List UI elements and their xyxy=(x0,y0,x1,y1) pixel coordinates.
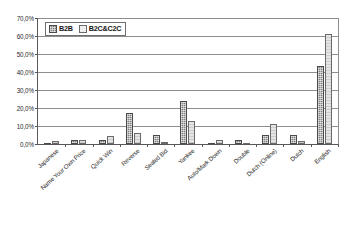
bar xyxy=(99,140,106,144)
y-tick-label: 30,0% xyxy=(17,87,34,94)
legend: B2B B2C&C2C xyxy=(45,22,126,36)
x-axis-label-text: Quick Win xyxy=(89,147,114,170)
x-axis-label-text: Yankee xyxy=(176,147,195,165)
bar-group xyxy=(202,18,229,144)
bar-group xyxy=(65,18,92,144)
legend-label: B2C&C2C xyxy=(89,24,122,33)
bar-group xyxy=(174,18,201,144)
y-tick-label: 50,0% xyxy=(17,51,34,58)
y-tick-mark xyxy=(35,144,38,145)
bar-group xyxy=(283,18,310,144)
legend-entry-b2c-c2c: B2C&C2C xyxy=(79,24,122,33)
bar xyxy=(235,140,242,144)
x-axis-label: Yankee xyxy=(176,147,195,165)
bar xyxy=(290,135,297,144)
bar xyxy=(216,140,223,144)
x-axis-label-text: Reverse xyxy=(120,147,141,167)
y-tick-label: 0,0% xyxy=(20,141,34,148)
bar xyxy=(180,101,187,144)
bar-group xyxy=(38,18,65,144)
x-axis-label-text: Japanese xyxy=(36,147,60,169)
bar xyxy=(262,135,269,144)
bar-group xyxy=(120,18,147,144)
y-tick-label: 40,0% xyxy=(17,69,34,76)
plot-area xyxy=(37,18,338,145)
x-axis-label: Dutch xyxy=(289,147,305,163)
plot-right-border xyxy=(338,18,339,145)
legend-swatch-icon xyxy=(49,25,57,33)
x-axis-labels: JapaneseName Your Own PriceQuick WinReve… xyxy=(37,147,347,232)
x-axis-label: English xyxy=(313,147,332,165)
legend-swatch-icon xyxy=(79,25,87,33)
y-tick-label: 20,0% xyxy=(17,105,34,112)
bar xyxy=(79,140,86,145)
bar-chart: 70,0% 60,0% 50,0% 40,0% 30,0% 20,0% 10,0… xyxy=(0,0,348,232)
bar xyxy=(161,142,168,144)
bar xyxy=(52,141,59,144)
y-axis: 70,0% 60,0% 50,0% 40,0% 30,0% 20,0% 10,0… xyxy=(0,0,34,232)
bar-groups xyxy=(38,18,338,144)
x-axis-label: Sealed Bid xyxy=(143,147,169,171)
bar xyxy=(208,143,215,144)
x-axis-label: Double xyxy=(232,147,251,165)
bar xyxy=(325,34,332,144)
bar xyxy=(44,143,51,144)
bar xyxy=(71,140,78,144)
bar-group xyxy=(147,18,174,144)
bar-group xyxy=(93,18,120,144)
x-axis-label: Japanese xyxy=(36,147,60,169)
bar xyxy=(134,133,141,144)
bar-group xyxy=(256,18,283,144)
x-axis-label-text: Sealed Bid xyxy=(143,147,169,171)
y-tick-label: 70,0% xyxy=(17,15,34,22)
bar xyxy=(243,143,250,144)
bar xyxy=(107,136,114,144)
bar xyxy=(188,121,195,144)
bar xyxy=(270,124,277,144)
x-axis-label-text: Double xyxy=(232,147,251,165)
legend-label: B2B xyxy=(59,24,73,33)
bar xyxy=(298,141,305,144)
bar xyxy=(153,135,160,144)
bar-group xyxy=(311,18,338,144)
y-tick-label: 10,0% xyxy=(17,123,34,130)
x-axis-label-text: Dutch xyxy=(289,147,305,163)
x-axis-label-text: English xyxy=(313,147,332,165)
x-axis-label: Reverse xyxy=(120,147,141,167)
bar xyxy=(317,66,324,144)
y-tick-label: 60,0% xyxy=(17,33,34,40)
bar xyxy=(126,113,133,144)
x-axis-label: Quick Win xyxy=(89,147,114,170)
bar-group xyxy=(229,18,256,144)
legend-entry-b2b: B2B xyxy=(49,24,73,33)
